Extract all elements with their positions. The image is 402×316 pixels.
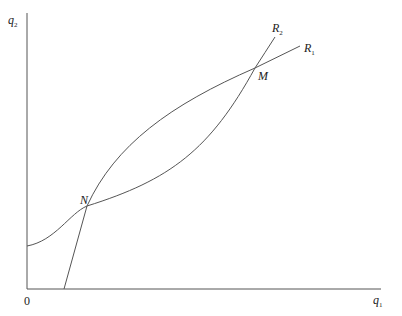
point-label-m: M [258,70,268,82]
r1-final [27,68,255,246]
diagram-canvas [0,0,402,316]
curve-label-r1: R1 [304,42,315,57]
y-axis-label: q2 [8,14,18,29]
origin-label: 0 [24,295,30,307]
curve-label-r2: R2 [272,22,283,37]
reaction-curve-r2-rendered [64,37,275,289]
reaction-curve-r1-line [27,68,255,246]
r1-curve [27,68,255,246]
x-axis-label: q1 [373,294,383,309]
point-label-n: N [80,194,88,206]
